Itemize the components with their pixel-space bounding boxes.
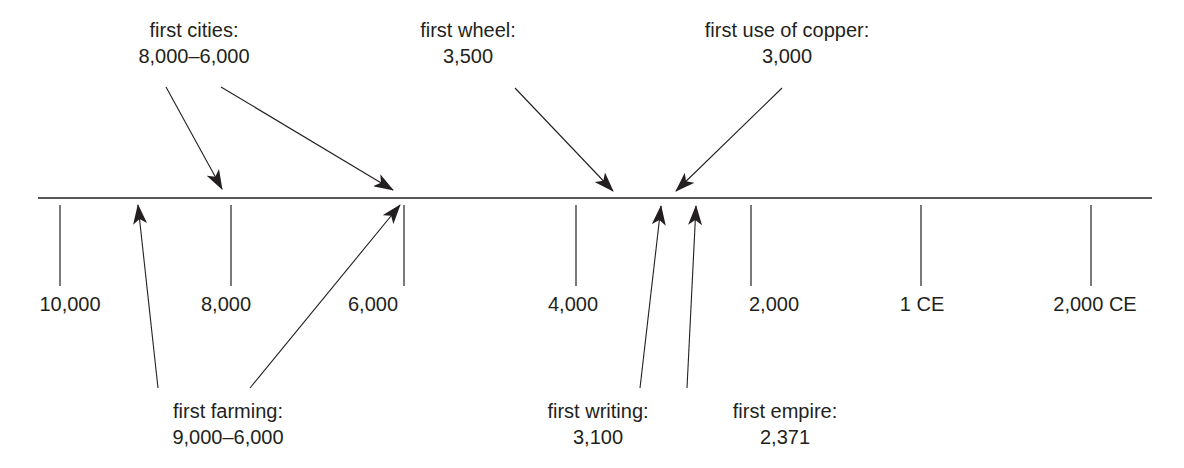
arrow-cities-start (166, 87, 222, 189)
tick-label-6000: 6,000 (348, 292, 398, 316)
event-date: 3,500 (420, 43, 516, 69)
event-first-writing: first writing: 3,100 (547, 398, 648, 450)
arrow-wheel (515, 88, 613, 191)
event-first-wheel: first wheel: 3,500 (420, 17, 516, 69)
event-date: 3,100 (547, 424, 648, 450)
event-first-cities: first cities: 8,000–6,000 (138, 17, 249, 69)
event-date: 8,000–6,000 (138, 43, 249, 69)
event-title: first wheel: (420, 17, 516, 43)
event-title: first cities: (138, 17, 249, 43)
event-first-empire: first empire: 2,371 (733, 398, 837, 450)
arrow-farming-start (138, 205, 158, 388)
arrow-empire (687, 206, 696, 388)
tick-label-2000: 2,000 (749, 292, 799, 316)
event-title: first empire: (733, 398, 837, 424)
event-title: first writing: (547, 398, 648, 424)
tick-label-8000: 8,000 (201, 292, 251, 316)
tick-label-4000: 4,000 (548, 292, 598, 316)
event-title: first farming: (172, 398, 283, 424)
event-date: 3,000 (705, 43, 870, 69)
event-first-farming: first farming: 9,000–6,000 (172, 398, 283, 450)
event-title: first use of copper: (705, 17, 870, 43)
tick-label-1ce: 1 CE (900, 292, 944, 316)
arrow-cities-end (221, 87, 393, 190)
tick-label-10000: 10,000 (39, 292, 100, 316)
arrow-writing (640, 206, 661, 388)
event-date: 9,000–6,000 (172, 424, 283, 450)
event-date: 2,371 (733, 424, 837, 450)
event-first-copper: first use of copper: 3,000 (705, 17, 870, 69)
arrow-copper (676, 88, 782, 191)
tick-label-2000ce: 2,000 CE (1053, 292, 1136, 316)
axis-ticks (60, 205, 1091, 286)
